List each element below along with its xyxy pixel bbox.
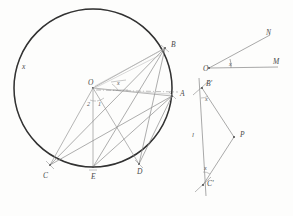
tick-D: [135, 160, 143, 168]
triangle-figure-group: [193, 78, 235, 196]
vertex-O-prime-mark: [208, 67, 210, 69]
chord-B-C: [50, 48, 165, 165]
geometry-figure-canvas: x B A C E D O x 2 1 N M O x B' C' P x x …: [0, 0, 293, 216]
vertex-Bprime-mark: [201, 87, 203, 89]
edge-P-Cprime: [203, 137, 234, 185]
radius-O-A: [93, 88, 172, 96]
edge-Bprime-P: [202, 88, 234, 137]
chord-A-C: [50, 96, 172, 165]
construction-line-1: [95, 49, 164, 86]
construction-line-2: [95, 55, 160, 88]
chord-A-D: [139, 96, 172, 164]
angle-figure-group: [208, 35, 278, 69]
ray-O-to-M: [209, 67, 278, 68]
vertex-Cprime-mark: [202, 184, 204, 186]
radius-O-C: [50, 88, 93, 165]
vertical-construction-line: [199, 78, 206, 196]
point-E-mark: [92, 166, 94, 168]
angle-arc-Cprime: [203, 172, 210, 174]
angle-arc-ONM: [230, 59, 231, 68]
chord-B-E: [93, 48, 165, 167]
figure-drawing-surface: [0, 0, 293, 216]
chords-group: [50, 48, 172, 167]
ray-O-to-N: [209, 35, 270, 68]
angle-tick-upper: [111, 80, 126, 82]
radius-O-D: [93, 88, 139, 164]
radii-group: [50, 48, 172, 167]
vertex-P-mark: [233, 136, 235, 138]
angle-arc-x-upper: [112, 84, 118, 90]
construction-fan-group: [95, 49, 170, 94]
